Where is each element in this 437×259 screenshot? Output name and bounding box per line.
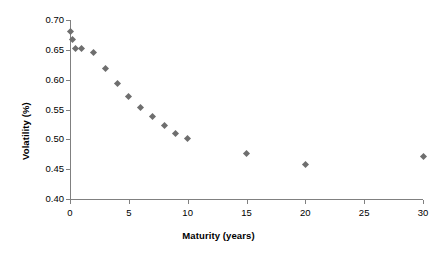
x-tick-label: 25 — [349, 207, 379, 218]
data-point-marker — [302, 161, 309, 168]
x-tick-mark — [305, 200, 306, 204]
x-tick-mark — [70, 200, 71, 204]
y-tick-label: 0.55 — [30, 104, 64, 115]
x-tick-mark — [423, 200, 424, 204]
data-point-marker — [78, 44, 85, 51]
y-tick-label: 0.65 — [30, 44, 64, 55]
data-point-marker — [243, 150, 250, 157]
data-point-marker — [161, 122, 168, 129]
x-axis-line — [70, 199, 423, 200]
x-tick-mark — [247, 200, 248, 204]
data-point-marker — [137, 104, 144, 111]
data-point-marker — [149, 113, 156, 120]
data-point-marker — [66, 28, 73, 35]
x-tick-mark — [188, 200, 189, 204]
y-tick-label: 0.50 — [30, 133, 64, 144]
x-tick-label: 10 — [173, 207, 203, 218]
x-tick-mark — [364, 200, 365, 204]
data-point-marker — [184, 135, 191, 142]
x-tick-label: 30 — [408, 207, 437, 218]
x-tick-mark — [129, 200, 130, 204]
data-point-marker — [102, 65, 109, 72]
x-tick-label: 0 — [55, 207, 85, 218]
x-tick-label: 15 — [232, 207, 262, 218]
y-tick-label: 0.45 — [30, 163, 64, 174]
y-axis-line — [70, 20, 71, 200]
data-point-marker — [125, 93, 132, 100]
data-point-marker — [90, 49, 97, 56]
data-point-marker — [114, 80, 121, 87]
x-axis-title: Maturity (years) — [0, 230, 437, 241]
y-tick-label: 0.60 — [30, 74, 64, 85]
y-tick-label: 0.70 — [30, 14, 64, 25]
x-tick-label: 20 — [290, 207, 320, 218]
data-point-marker — [172, 130, 179, 137]
y-tick-label: 0.40 — [30, 193, 64, 204]
volatility-maturity-scatter-chart: Volatility (%) Maturity (years) 0.400.45… — [0, 0, 437, 259]
data-point-marker — [419, 153, 426, 160]
x-tick-label: 5 — [114, 207, 144, 218]
